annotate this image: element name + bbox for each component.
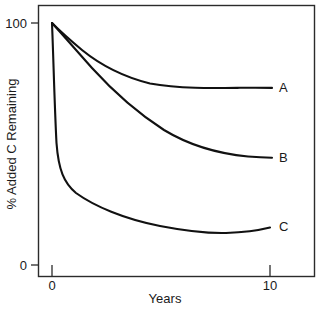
y-axis-title: % Added C Remaining (4, 79, 19, 210)
chart-figure: 100 0 0 10 % Added C Remaining Years A B… (0, 0, 326, 311)
series-label-a: A (279, 80, 288, 95)
x-axis-title: Years (149, 291, 182, 306)
series-curve-b (52, 23, 272, 158)
series-curve-a (52, 23, 272, 88)
x-tick-label-0: 0 (48, 278, 55, 293)
x-tick-label-10: 10 (263, 278, 277, 293)
chart-canvas: 100 0 0 10 % Added C Remaining Years A B… (0, 0, 326, 311)
plot-frame (39, 6, 315, 277)
y-tick-label-0: 0 (20, 258, 27, 273)
series-label-b: B (279, 150, 288, 165)
series-label-c: C (279, 219, 288, 234)
y-tick-label-100: 100 (5, 16, 27, 31)
